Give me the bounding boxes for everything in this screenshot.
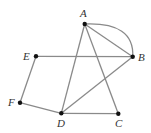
vertex-label-D: D — [56, 117, 65, 129]
edge-F-D — [20, 103, 61, 114]
edge-B-D — [61, 57, 132, 114]
graph-diagram: ABCDEF — [0, 0, 151, 133]
labels-layer: ABCDEF — [7, 7, 145, 129]
vertex-B — [131, 55, 135, 59]
vertex-E — [34, 54, 38, 58]
vertex-label-C: C — [115, 117, 123, 129]
edge-A-D — [61, 24, 84, 113]
vertex-D — [59, 111, 63, 115]
edge-A-B — [85, 24, 133, 57]
vertex-A — [83, 22, 87, 26]
vertex-label-A: A — [79, 7, 87, 19]
vertex-C — [116, 112, 120, 116]
vertex-label-F: F — [7, 96, 15, 108]
vertex-label-B: B — [138, 51, 145, 63]
vertex-F — [18, 101, 22, 105]
vertex-label-E: E — [22, 50, 30, 62]
edge-A-C — [85, 24, 119, 114]
edges-layer — [20, 24, 133, 114]
edge-E-F — [20, 56, 36, 102]
